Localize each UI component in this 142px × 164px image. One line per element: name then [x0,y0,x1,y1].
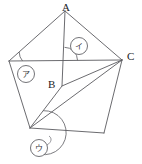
angle-marker-i: イ [71,38,88,55]
angle-marker-a: ア [18,66,35,83]
angle-marker-u: ウ [31,140,48,157]
angle-marker-a-label: ア [22,70,30,79]
angle-arcs [19,47,77,154]
vertex-label-C: C [127,51,134,62]
chord-F-to-C [9,60,122,61]
angle-marker-u-label: ウ [35,144,43,153]
leader-line-marker-u [47,136,51,145]
pentagon-edge-D-E [30,128,104,133]
figure-canvas: ア イ ウ [0,0,142,164]
vertex-label-B: B [48,79,55,90]
angle-marker-i-label: イ [75,42,83,51]
pentagon-edge-F-A [9,11,65,61]
angle-arc-at-F [19,52,22,61]
chord-A-to-E [30,11,65,128]
vertex-label-A: A [62,2,70,13]
geometry-figure: ア イ ウ A B C [0,0,142,164]
